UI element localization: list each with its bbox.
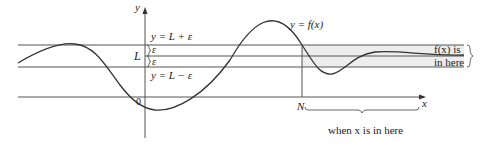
epsilon-lower-label: ε xyxy=(152,56,156,67)
x-range-brace xyxy=(305,107,419,113)
epsilon-upper-brace xyxy=(147,45,151,56)
x-axis-label: x xyxy=(421,97,427,109)
fx-range-label-line2: in here xyxy=(434,56,464,68)
epsilon-upper-label: ε xyxy=(152,44,156,55)
y-axis-label: y xyxy=(134,1,140,13)
origin-label: 0 xyxy=(136,96,141,107)
curve-label: y = f(x) xyxy=(289,18,323,31)
lower-line-label: y = L − ε xyxy=(150,69,193,81)
fx-range-brace xyxy=(467,45,473,67)
upper-line-label: y = L + ε xyxy=(150,30,193,42)
epsilon-lower-brace xyxy=(147,56,151,67)
L-label: L xyxy=(133,49,141,63)
x-range-label: when x is in here xyxy=(328,124,403,136)
y-axis-arrow-icon xyxy=(143,7,148,14)
fx-range-label-line1: f(x) is xyxy=(434,43,461,56)
N-label: N xyxy=(296,100,305,112)
epsilon-band-diagram: y x 0 L ε ε y = L + ε y = L − ε y = f(x)… xyxy=(0,0,482,144)
